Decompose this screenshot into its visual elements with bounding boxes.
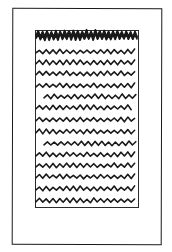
text-line-scribble — [36, 174, 135, 179]
body-text-scribbles — [36, 49, 136, 203]
text-line-scribble — [36, 186, 135, 191]
text-line-scribble — [36, 117, 135, 122]
text-line-scribble — [36, 129, 135, 134]
text-line-scribble — [44, 94, 136, 99]
text-line-scribble — [36, 71, 135, 76]
text-line-scribble — [36, 105, 131, 110]
text-line-scribble — [44, 141, 136, 146]
text-line-scribble — [36, 83, 135, 88]
text-line-scribble — [36, 49, 135, 54]
heading-scribble — [36, 30, 137, 41]
scribble-text — [0, 0, 172, 252]
text-line-scribble — [36, 60, 135, 65]
text-line-scribble — [36, 163, 135, 168]
text-line-scribble — [36, 198, 135, 203]
text-line-scribble — [36, 152, 135, 157]
